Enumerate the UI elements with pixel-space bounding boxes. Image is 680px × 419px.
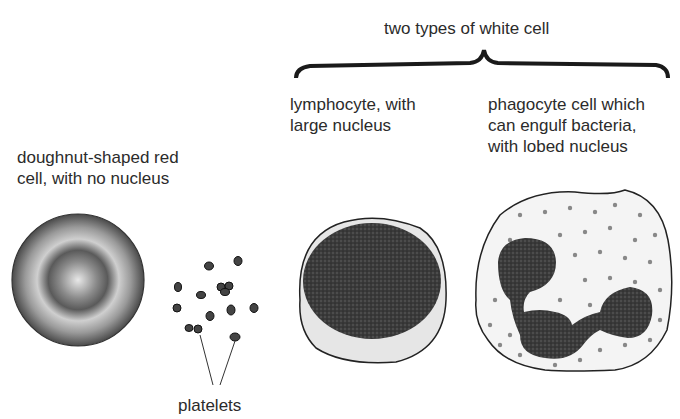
phagocyte-label: phagocyte cell which can engulf bacteria… (488, 94, 645, 157)
lymphocyte-cell (300, 218, 446, 363)
platelets-pointer (220, 341, 235, 385)
platelets-pointer (200, 335, 213, 385)
blood-cells-diagram (0, 0, 680, 419)
platelets-label: platelets (178, 395, 241, 416)
red-blood-cell (12, 214, 144, 346)
white-cell-group-label: two types of white cell (384, 18, 549, 39)
lymphocyte-label: lymphocyte, with large nucleus (290, 94, 416, 136)
red-cell-label: doughnut-shaped red cell, with no nucleu… (17, 147, 179, 189)
phagocyte-cell (476, 190, 672, 371)
platelets-cluster (173, 257, 258, 342)
bracket-icon (296, 50, 668, 78)
lymphocyte-nucleus (303, 223, 441, 339)
